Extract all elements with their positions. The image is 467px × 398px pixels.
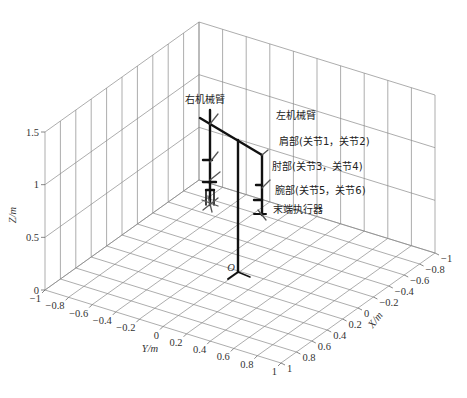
y-tick-label: 0 bbox=[154, 330, 159, 341]
3d-plot: 00.511.5−1−0.8−0.6−0.4−0.200.20.40.60.81… bbox=[0, 0, 467, 398]
z-tick-label: 0.5 bbox=[26, 232, 39, 243]
x-tick-label: −1 bbox=[441, 253, 452, 264]
y-tick-label: 0.6 bbox=[217, 351, 230, 362]
y-tick-label: 0.8 bbox=[240, 359, 253, 370]
y-tick-label: 1 bbox=[272, 366, 277, 377]
z-tick-label: 1 bbox=[34, 179, 39, 190]
y-tick-label: −0.4 bbox=[93, 315, 113, 326]
end-effector-label: 末端执行器 bbox=[273, 203, 323, 215]
z-axis-label: Z/m bbox=[7, 206, 18, 223]
y-tick-label: 0.4 bbox=[193, 344, 207, 355]
z-tick-label: 1.5 bbox=[26, 127, 39, 138]
y-tick-label: −0.6 bbox=[69, 308, 88, 319]
annotations: 右机械臂左机械臂肩部(关节1，关节2)肘部(关节3，关节4)腕部(关节5，关节6… bbox=[185, 93, 370, 215]
robot-skeleton: O bbox=[200, 110, 270, 279]
x-tick-label: 0 bbox=[364, 308, 369, 319]
wrist-label: 腕部(关节5，关节6) bbox=[275, 184, 366, 196]
elbow-label: 肘部(关节3，关节4) bbox=[272, 160, 363, 172]
shoulder-label: 肩部(关节1，关节2) bbox=[279, 135, 370, 147]
x-tick-label: −0.6 bbox=[410, 275, 429, 286]
y-tick-label: −1 bbox=[30, 293, 41, 304]
origin-label: O bbox=[227, 262, 235, 273]
x-tick-label: −0.2 bbox=[379, 297, 398, 308]
x-tick-label: 0.8 bbox=[302, 352, 315, 363]
y-tick-label: −0.2 bbox=[116, 322, 135, 333]
y-tick-label: 0.2 bbox=[169, 337, 182, 348]
x-tick-label: 0.6 bbox=[318, 341, 331, 352]
x-tick-label: −0.4 bbox=[395, 286, 415, 297]
x-tick-label: −0.8 bbox=[426, 264, 445, 275]
y-tick-label: −0.8 bbox=[46, 300, 65, 311]
y-axis-label: Y/m bbox=[142, 343, 159, 354]
x-tick-label: 1 bbox=[287, 363, 292, 374]
x-tick-label: 0.4 bbox=[333, 330, 347, 341]
left-arm-label: 左机械臂 bbox=[276, 109, 316, 121]
right-arm-label: 右机械臂 bbox=[185, 93, 225, 105]
x-tick-label: 0.2 bbox=[349, 319, 362, 330]
